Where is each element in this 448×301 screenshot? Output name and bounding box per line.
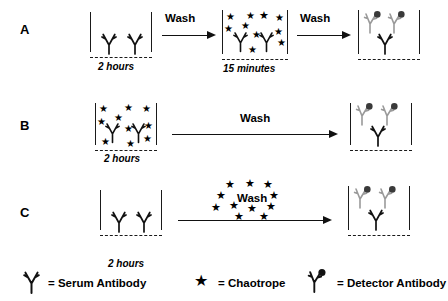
chaotrope-star-icon: ★ [247,203,257,214]
well-wall-right [411,103,412,145]
well-wall-left [350,103,351,145]
process-arrow-b1 [172,128,338,140]
well-wall-left [95,103,96,145]
legend-label-serum-antibody: = Serum Antibody [48,277,146,289]
chaotrope-star-icon: ★ [124,124,133,134]
detector-antibody-icon [364,11,384,33]
time-label-a2: 15 minutes [223,63,275,74]
chaotrope-star-icon: ★ [114,113,123,123]
chaotrope-star-icon: ★ [277,38,286,48]
detector-antibody-icon [388,11,408,33]
well-floor [358,59,420,60]
chaotrope-star-icon: ★ [97,117,106,127]
chaotrope-star-icon: ★ [234,211,244,222]
legend: = Serum Antibody ★ = Chaotrope = Detecto… [0,268,448,301]
row-label-b: B [20,118,29,133]
chaotrope-star-icon: ★ [124,103,133,113]
detector-antibody-icon [379,186,399,208]
time-label-a1: 2 hours [98,61,134,72]
serum-antibody-icon [100,32,118,54]
well-wall-left [100,190,101,230]
well-floor [90,57,152,58]
row-label-c: C [20,205,29,220]
wash-label-a1: Wash [165,12,195,24]
chaotrope-star-icon: ★ [224,24,233,34]
serum-antibody-icon [110,210,128,232]
detector-antibody-icon [381,103,401,125]
time-label-b1: 2 hours [104,153,140,164]
chaotrope-star-icon: ★ [248,45,257,55]
chaotrope-star-icon: ★ [225,179,235,190]
chaotrope-star-icon: ★ [143,134,152,144]
detector-antibody-icon [308,269,329,292]
serum-antibody-icon [369,124,387,146]
well-wall-right [151,12,152,52]
well-wall-right [161,190,162,230]
serum-antibody-icon [367,208,385,230]
chaotrope-star-icon: ★ [101,137,110,147]
well-wall-left [222,10,223,54]
detector-antibody-icon [354,186,374,208]
well-floor [95,150,157,151]
arrow-head [342,31,351,39]
chaotrope-star-icon: ★ [142,104,151,114]
chaotrope-star-icon: ★ [252,30,261,40]
well-floor [348,235,410,236]
figure-canvas: A 2 hours Wash ★ ★ ★ ★ ★ [0,0,448,301]
row-label-a: A [20,22,29,37]
chaotrope-star-icon: ★ [216,190,226,201]
chaotrope-star-icon: ★ [245,178,255,189]
process-arrow-a2 [297,29,351,41]
arrow-head [323,216,332,224]
detector-antibody-icon [356,103,376,125]
well-wall-right [156,103,157,145]
legend-label-chaotrope: = Chaotrope [218,277,285,289]
well-wall-left [358,10,359,54]
chaotrope-star-icon: ★ [99,104,108,114]
arrow-shaft [162,35,208,36]
chaotrope-star-icon: ★ [126,139,135,149]
chaotrope-star-icon: ★ [144,121,153,131]
arrow-shaft [172,134,330,135]
wash-label-b1: Wash [240,112,270,124]
well-wall-right [287,10,288,54]
arrow-shaft [297,35,343,36]
serum-antibody-icon [232,30,249,52]
chaotrope-star-icon: ★ [259,211,269,222]
legend-label-detector-antibody: = Detector Antibody [337,277,446,289]
well-wall-right [419,10,420,54]
well-floor [222,59,288,60]
serum-antibody-icon [126,32,144,54]
arrow-shaft [178,220,324,221]
serum-antibody-icon [376,32,394,54]
wash-label-a2: Wash [300,12,330,24]
chaotrope-star-icon: ★ [194,273,208,289]
arrow-head [207,31,216,39]
chaotrope-star-icon: ★ [241,21,250,31]
chaotrope-star-icon: ★ [275,13,284,23]
process-arrow-a1 [162,29,216,41]
chaotrope-star-icon: ★ [226,12,235,22]
arrow-head [329,130,338,138]
process-arrow-c1 [178,214,332,226]
chaotrope-star-icon: ★ [259,10,269,21]
chaotrope-star-icon: ★ [211,202,221,213]
chaotrope-star-icon: ★ [274,27,283,37]
serum-antibody-icon [22,270,41,293]
well-wall-left [348,186,349,230]
serum-antibody-icon [135,210,153,232]
well-wall-right [409,186,410,230]
well-floor [100,235,162,236]
well-wall-left [90,12,91,52]
well-floor [350,150,412,151]
